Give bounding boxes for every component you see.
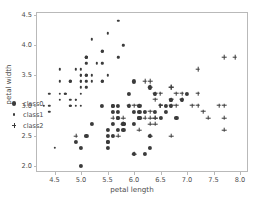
data-point-class2 — [169, 103, 174, 108]
x-tick-label: 7.0 — [182, 176, 193, 184]
data-point-class2 — [222, 55, 227, 60]
x-tick-mark — [108, 172, 109, 175]
x-tick-label: 5.5 — [102, 176, 113, 184]
data-point-class2 — [232, 55, 237, 60]
x-tick-label: 8.0 — [235, 176, 246, 184]
x-tick-mark — [134, 172, 135, 175]
x-tick-mark — [240, 172, 241, 175]
y-tick-mark — [34, 15, 37, 16]
legend-label: class2 — [23, 122, 44, 130]
data-point-class2 — [148, 115, 153, 120]
data-point-class2 — [142, 115, 147, 120]
x-tick-label: 6.5 — [155, 176, 166, 184]
x-tick-label: 7.5 — [208, 176, 219, 184]
data-point-class2 — [222, 115, 227, 120]
data-point-class2 — [121, 121, 126, 126]
data-point-class2 — [73, 133, 78, 138]
y-tick-mark — [34, 45, 37, 46]
data-point-class2 — [111, 115, 116, 120]
y-tick-label: 4.0 — [12, 41, 32, 49]
legend-entry-class1[interactable]: class1 — [8, 109, 44, 120]
x-tick-label: 5.0 — [76, 176, 87, 184]
scatter-plot-figure: 4.55.05.56.06.57.07.58.02.02.53.03.54.04… — [0, 0, 264, 201]
y-tick-mark — [34, 136, 37, 137]
legend-entry-class2[interactable]: class2 — [8, 120, 44, 131]
data-point-class2 — [126, 103, 131, 108]
data-point-class2 — [148, 109, 153, 114]
data-point-class2 — [121, 115, 126, 120]
data-point-class2 — [217, 103, 222, 108]
data-point-class2 — [137, 103, 142, 108]
data-point-class2 — [169, 97, 174, 102]
y-tick-label: 4.5 — [12, 11, 32, 19]
data-point-class2 — [153, 91, 158, 96]
legend: class0class1class2 — [8, 98, 44, 131]
data-point-class2 — [222, 103, 227, 108]
data-point-class2 — [137, 127, 142, 132]
data-point-class2 — [179, 91, 184, 96]
x-tick-label: 6.0 — [129, 176, 140, 184]
data-point-class2 — [153, 115, 158, 120]
x-tick-label: 4.5 — [49, 176, 60, 184]
x-tick-mark — [81, 172, 82, 175]
x-tick-mark — [187, 172, 188, 175]
y-tick-label: 2.0 — [12, 162, 32, 170]
x-tick-mark — [55, 172, 56, 175]
data-point-class2 — [206, 115, 211, 120]
data-point-class2 — [195, 103, 200, 108]
data-point-class2 — [132, 103, 137, 108]
data-point-class2 — [116, 133, 121, 138]
legend-entry-class0[interactable]: class0 — [8, 98, 44, 109]
data-point-class2 — [148, 121, 153, 126]
y-tick-label: 3.5 — [12, 71, 32, 79]
legend-label: class0 — [23, 100, 44, 108]
y-tick-label: 2.5 — [12, 132, 32, 140]
x-tick-mark — [214, 172, 215, 175]
data-point-class2 — [132, 152, 137, 157]
y-tick-mark — [34, 75, 37, 76]
data-point-class2 — [195, 67, 200, 72]
x-tick-mark — [161, 172, 162, 175]
data-point-class2 — [179, 97, 184, 102]
data-point-class2 — [153, 97, 158, 102]
plot-area — [36, 12, 248, 172]
legend-marker-icon — [8, 120, 20, 131]
data-point-class2 — [148, 79, 153, 84]
data-point-class2 — [153, 121, 158, 126]
y-axis-label: petal width — [4, 55, 13, 115]
y-tick-mark — [34, 166, 37, 167]
data-point-class2 — [190, 103, 195, 108]
legend-label: class1 — [23, 111, 44, 119]
data-point-class2 — [222, 127, 227, 132]
data-point-class2 — [169, 85, 174, 90]
data-point-class2 — [148, 85, 153, 90]
data-point-class2 — [195, 91, 200, 96]
data-point-class2 — [201, 109, 206, 114]
data-point-class2 — [142, 79, 147, 84]
data-point-class2 — [174, 91, 179, 96]
data-point-class2 — [169, 133, 174, 138]
data-point-class2 — [158, 103, 163, 108]
data-point-class2 — [148, 133, 153, 138]
x-axis-label: petal length — [0, 185, 264, 194]
data-point-class2 — [158, 91, 163, 96]
data-point-class2 — [174, 103, 179, 108]
